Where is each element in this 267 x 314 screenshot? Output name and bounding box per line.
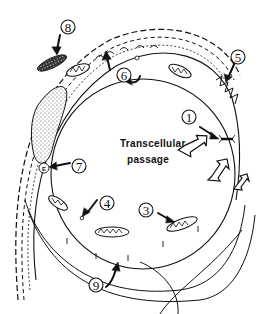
svg-text:4: 4 <box>104 196 111 211</box>
pericyte-process <box>25 200 255 302</box>
transport-arrow-medium <box>208 159 229 181</box>
svg-text:9: 9 <box>93 278 100 293</box>
junction-ticks <box>67 226 198 261</box>
mitochondrion-bottom-right <box>165 214 198 234</box>
transcellular-label-line1: Transcellular <box>120 138 186 149</box>
label-4: 4 <box>100 196 114 211</box>
interstitial-boundary <box>140 262 178 314</box>
svg-text:3: 3 <box>143 203 150 218</box>
mitochondrion-upper-right <box>167 61 193 80</box>
svg-text:7: 7 <box>76 159 83 174</box>
label-7: 7 <box>72 159 86 174</box>
svg-text:6: 6 <box>121 68 128 83</box>
marker-e: E <box>39 163 49 173</box>
capillary-cross-section-diagram: E Transcellular passage <box>0 0 267 314</box>
svg-text:E: E <box>42 166 46 172</box>
transcellular-label-line2: passage <box>127 154 169 165</box>
mitochondria <box>46 61 198 237</box>
label-3: 3 <box>139 203 153 218</box>
vesicle-top <box>135 56 139 60</box>
label-5: 5 <box>231 50 245 65</box>
svg-text:1: 1 <box>186 110 193 125</box>
dense-organelle <box>35 52 68 75</box>
label-9: 9 <box>89 278 103 293</box>
svg-text:5: 5 <box>235 50 242 65</box>
svg-text:8: 8 <box>65 20 72 35</box>
transport-arrow-small <box>234 174 249 190</box>
label-8: 8 <box>61 20 75 35</box>
label-6: 6 <box>117 68 131 83</box>
capillary-lumen <box>51 79 235 269</box>
mitochondrion-bottom <box>95 227 129 237</box>
label-1: 1 <box>182 110 196 125</box>
endothelium-outer-membrane <box>34 53 240 280</box>
